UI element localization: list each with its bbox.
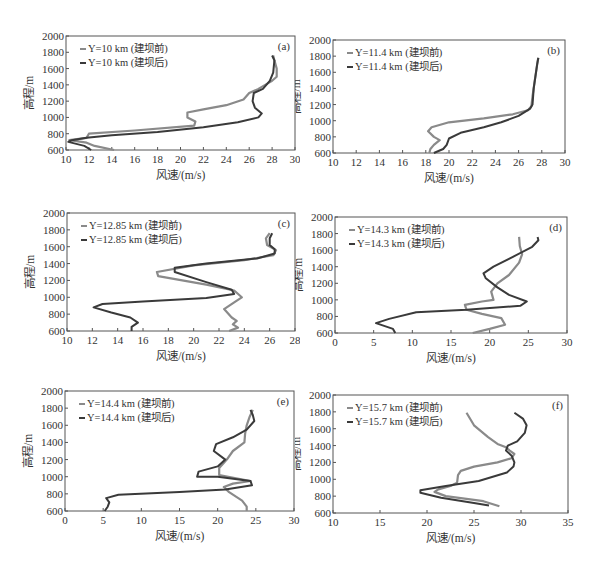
x-tick-label: 30	[562, 336, 574, 348]
y-axis-label: 高程/m	[21, 434, 34, 468]
x-tick-label: 22	[214, 334, 225, 346]
x-tick-label: 22	[467, 156, 478, 168]
x-tick-label: 20	[188, 334, 200, 346]
legend-entry: Y=15.7 km (建坝后)	[355, 415, 443, 428]
y-tick-label: 1200	[309, 456, 332, 468]
series-before-dam	[428, 58, 538, 153]
x-tick-label: 26	[264, 334, 276, 346]
x-tick-label: 16	[138, 334, 150, 346]
x-tick-label: 26	[513, 156, 525, 168]
y-tick-label: 800	[315, 131, 332, 143]
x-tick-label: 20	[175, 153, 187, 165]
series-before-dam	[435, 413, 515, 507]
x-tick-label: 0	[62, 514, 68, 526]
panel-label: (a)	[278, 40, 291, 53]
x-tick-label: 18	[420, 156, 432, 168]
y-axis-label: 高程/m	[23, 255, 36, 289]
x-tick-label: 15	[375, 516, 387, 528]
y-tick-label: 1400	[309, 440, 332, 452]
x-tick-label: 10	[407, 336, 419, 348]
series-after-dam	[105, 410, 255, 511]
x-axis-label: 风速/(m/s)	[426, 532, 476, 545]
y-tick-label: 1800	[42, 46, 65, 58]
y-tick-label: 600	[49, 325, 66, 337]
x-axis-label: 风速/(m/s)	[156, 350, 206, 363]
x-tick-label: 15	[174, 514, 186, 526]
series-after-dam	[94, 233, 275, 331]
y-tick-label: 1600	[311, 244, 334, 256]
y-tick-label: 1000	[42, 111, 65, 123]
y-axis-label: 高程/m	[295, 437, 302, 471]
y-tick-label: 1600	[309, 66, 332, 78]
y-tick-label: 1400	[41, 436, 64, 448]
series-before-dam	[157, 233, 276, 331]
y-tick-label: 1800	[41, 402, 64, 414]
x-axis-label: 风速/(m/s)	[426, 352, 476, 365]
x-tick-label: 0	[332, 336, 338, 348]
legend-entry: Y=15.7 km (建坝前)	[355, 401, 443, 414]
y-tick-label: 2000	[42, 30, 65, 42]
x-tick-label: 12	[83, 153, 94, 165]
x-tick-label: 28	[267, 153, 279, 165]
panel-e: 0510152025306008001000120014001600180020…	[0, 380, 300, 568]
x-tick-label: 14	[112, 334, 124, 346]
x-tick-label: 12	[351, 156, 362, 168]
x-tick-label: 20	[422, 516, 434, 528]
x-tick-label: 30	[516, 516, 528, 528]
y-tick-label: 1200	[43, 274, 66, 286]
panel-b: 1012141618202224262830600800100012001400…	[295, 0, 603, 190]
y-tick-label: 1400	[309, 82, 332, 94]
y-tick-label: 2000	[311, 211, 334, 223]
x-tick-label: 20	[212, 514, 224, 526]
panel-label: (d)	[549, 221, 562, 234]
x-tick-label: 24	[239, 334, 251, 346]
x-axis-label: 风速/(m/s)	[155, 530, 205, 543]
panel-a: 1012141618202224262830600800100012001400…	[0, 0, 300, 190]
x-tick-label: 30	[560, 156, 572, 168]
y-tick-label: 1400	[42, 79, 65, 91]
legend-entry: Y=12.85 km (建坝前)	[89, 219, 182, 232]
x-tick-label: 14	[374, 156, 386, 168]
y-tick-label: 1800	[309, 50, 332, 62]
panel-label: (e)	[277, 395, 290, 408]
x-tick-label: 20	[444, 156, 456, 168]
y-tick-label: 1000	[41, 471, 64, 483]
x-tick-label: 26	[244, 153, 256, 165]
y-tick-label: 600	[48, 144, 65, 156]
series-after-dam	[68, 56, 274, 151]
x-tick-label: 10	[136, 514, 148, 526]
y-tick-label: 600	[47, 505, 64, 517]
y-tick-label: 800	[49, 308, 66, 320]
x-tick-label: 24	[221, 153, 233, 165]
y-tick-label: 600	[315, 147, 332, 159]
y-tick-label: 1000	[43, 291, 66, 303]
x-axis-label: 风速/(m/s)	[156, 169, 206, 182]
legend-entry: Y=12.85 km (建坝后)	[89, 233, 182, 246]
y-tick-label: 1800	[309, 406, 332, 418]
y-tick-label: 1800	[43, 224, 66, 236]
y-axis-label: 高程/m	[22, 76, 35, 110]
y-tick-label: 800	[315, 490, 332, 502]
y-tick-label: 1800	[311, 228, 334, 240]
panel-label: (b)	[547, 44, 560, 57]
y-tick-label: 2000	[309, 389, 332, 401]
y-tick-label: 1000	[309, 473, 332, 485]
y-axis-label: 高程/m	[295, 258, 304, 292]
x-tick-label: 18	[163, 334, 175, 346]
x-tick-label: 25	[250, 514, 262, 526]
y-tick-label: 600	[315, 507, 332, 519]
y-tick-label: 1000	[309, 115, 332, 127]
y-tick-label: 2000	[43, 207, 66, 219]
y-tick-label: 600	[317, 327, 334, 339]
x-tick-label: 14	[106, 153, 118, 165]
legend-entry: Y=14.3 km (建坝前)	[357, 223, 445, 236]
x-tick-label: 16	[397, 156, 409, 168]
x-tick-label: 5	[100, 514, 106, 526]
y-tick-label: 1200	[42, 95, 65, 107]
legend-entry: Y=10 km (建坝前)	[88, 42, 168, 55]
y-tick-label: 2000	[309, 34, 332, 46]
y-tick-label: 2000	[41, 385, 64, 397]
legend-entry: Y=11.4 km (建坝前)	[355, 46, 443, 59]
legend-entry: Y=14.4 km (建坝前)	[87, 397, 175, 410]
y-tick-label: 800	[47, 488, 64, 500]
